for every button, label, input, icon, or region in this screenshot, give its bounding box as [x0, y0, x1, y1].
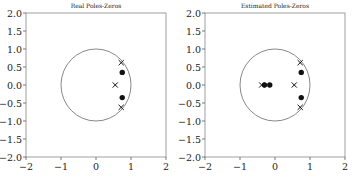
y-tick-label: −2.0	[178, 152, 201, 163]
y-tick-label: −0.5	[0, 98, 22, 109]
y-tick-label: 0.5	[7, 62, 22, 73]
x-tick-label: 2	[163, 161, 169, 172]
zero-marker-icon	[299, 95, 304, 100]
pole-marker-icon	[119, 60, 124, 65]
y-tick-label: 0.5	[186, 62, 201, 73]
y-tick-label: −1.5	[0, 134, 22, 145]
y-tick-label: 1.0	[7, 44, 22, 55]
y-tick-label: 0.0	[186, 80, 201, 91]
pole-marker-icon	[119, 105, 124, 110]
y-tick-label: −1.0	[0, 116, 22, 127]
y-tick-label: −0.5	[178, 98, 201, 109]
y-tick-label: 1.5	[7, 26, 22, 37]
pole-marker-icon	[298, 105, 303, 110]
pole-marker-icon	[292, 82, 297, 87]
zero-marker-icon	[262, 82, 267, 87]
y-tick-label: 1.5	[186, 26, 201, 37]
unit-circle	[240, 49, 310, 121]
x-tick-label: 1	[128, 161, 134, 172]
x-tick-label: −1	[54, 161, 68, 172]
zero-marker-icon	[120, 95, 125, 100]
pole-marker-icon	[113, 82, 118, 87]
y-tick-label: 2.0	[186, 8, 201, 19]
y-tick-label: −1.5	[178, 134, 201, 145]
x-tick-label: 0	[93, 161, 99, 172]
y-tick-label: 1.0	[186, 44, 201, 55]
right-chart: Estimated Poles-Zeros −2−10122.01.51.00.…	[176, 0, 353, 181]
x-tick-label: 0	[272, 161, 278, 172]
x-tick-label: 1	[307, 161, 313, 172]
left-plot: −2−10122.01.51.00.50.0−0.5−1.0−1.5−2.0	[0, 0, 176, 181]
x-tick-label: −2	[19, 161, 33, 172]
y-tick-label: 2.0	[7, 8, 22, 19]
left-chart: Real Poles-Zeros −2−10122.01.51.00.50.0−…	[0, 0, 176, 181]
x-tick-label: 2	[342, 161, 348, 172]
axes-frame	[26, 13, 166, 157]
y-tick-label: −1.0	[178, 116, 201, 127]
zero-marker-icon	[299, 70, 304, 75]
unit-circle	[61, 49, 131, 121]
zero-marker-icon	[267, 82, 272, 87]
y-tick-label: 0.0	[7, 80, 22, 91]
y-tick-label: −2.0	[0, 152, 22, 163]
right-plot: −2−10122.01.51.00.50.0−0.5−1.0−1.5−2.0	[176, 0, 353, 181]
axes-frame	[205, 13, 345, 157]
pole-marker-icon	[298, 60, 303, 65]
x-tick-label: −2	[198, 161, 212, 172]
x-tick-label: −1	[233, 161, 247, 172]
zero-marker-icon	[120, 70, 125, 75]
